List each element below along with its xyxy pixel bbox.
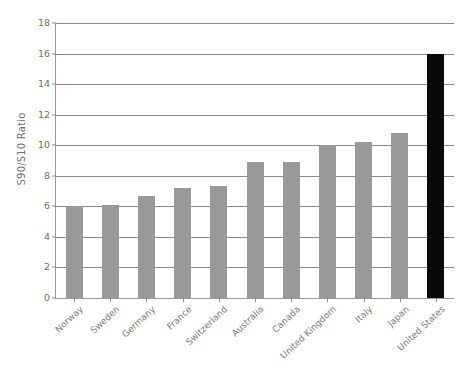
- chart-figure: S90/S10 Ratio 024681012141618 NorwaySwed…: [0, 0, 474, 374]
- bar-italy: [355, 142, 372, 298]
- x-tick-mark: [400, 298, 401, 302]
- x-tick-mark: [110, 298, 111, 302]
- y-tick-label: 2: [44, 263, 50, 273]
- y-axis-label: S90/S10 Ratio: [14, 0, 30, 298]
- x-tick-mark: [327, 298, 328, 302]
- x-tick-mark: [219, 298, 220, 302]
- bar-france: [174, 188, 191, 298]
- y-tick-label: 14: [38, 79, 50, 89]
- x-tick-label-sweden: Sweden: [88, 304, 122, 336]
- x-tick-mark: [291, 298, 292, 302]
- y-tick-label: 0: [44, 293, 50, 303]
- x-tick-label-france: France: [165, 304, 194, 332]
- x-tick-label-canada: Canada: [270, 304, 303, 335]
- x-tick-label-japan: Japan: [385, 304, 411, 329]
- bar-sweden: [102, 205, 119, 298]
- bar-australia: [247, 162, 264, 298]
- bar-canada: [283, 162, 300, 298]
- y-tick-label: 4: [44, 232, 50, 242]
- x-tick-mark: [255, 298, 256, 302]
- bar-japan: [391, 133, 408, 298]
- bar-united-kingdom: [319, 145, 336, 298]
- bar-germany: [138, 196, 155, 298]
- x-tick-mark: [436, 298, 437, 302]
- x-tick-label-germany: Germany: [120, 304, 158, 340]
- y-tick-label: 12: [38, 110, 50, 120]
- y-tick-label: 10: [38, 140, 50, 150]
- x-tick-mark: [183, 298, 184, 302]
- y-tick-label: 6: [44, 202, 50, 212]
- y-tick-label: 16: [38, 49, 50, 59]
- x-tick-label-norway: Norway: [53, 304, 85, 335]
- x-tick-mark: [364, 298, 365, 302]
- y-tick-label: 8: [44, 171, 50, 181]
- bar-switzerland: [210, 186, 227, 298]
- x-tick-label-italy: Italy: [353, 304, 375, 325]
- plot-area: 024681012141618 NorwaySwedenGermanyFranc…: [55, 23, 454, 299]
- x-tick-mark: [74, 298, 75, 302]
- x-tick-mark: [146, 298, 147, 302]
- bars-group: [56, 23, 454, 298]
- bar-united-states: [427, 54, 444, 298]
- y-tick-label: 18: [38, 18, 50, 28]
- bar-norway: [66, 206, 83, 298]
- x-tick-label-australia: Australia: [230, 304, 267, 339]
